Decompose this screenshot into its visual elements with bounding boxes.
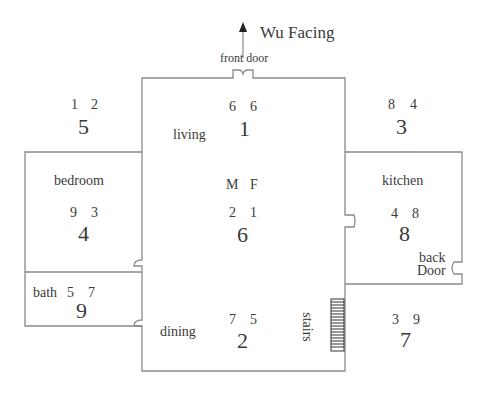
stairs-icon [331,299,344,351]
center-base-star: 6 [237,224,248,246]
w-facing-star: 3 [91,206,98,220]
n-facing-star: 6 [250,100,257,114]
bedroom-label: bedroom [54,174,104,188]
e-base-star: 8 [399,223,410,245]
ne-facing-star: 4 [410,98,417,112]
e-facing-star: 8 [412,207,419,221]
sw-mountain-star: 5 [67,286,74,300]
e-mountain-star: 4 [391,207,398,221]
n-base-star: 1 [239,118,250,140]
kitchen-label: kitchen [382,174,423,188]
ne-base-star: 3 [396,116,407,138]
center-mountain-star: 2 [229,206,236,220]
sw-base-star: 9 [76,300,87,322]
se-mountain-star: 3 [392,313,399,327]
s-facing-star: 5 [250,313,257,327]
n-mountain-star: 6 [229,100,236,114]
sw-facing-star: 7 [88,286,95,300]
se-base-star: 7 [400,329,411,351]
w-mountain-star: 9 [70,206,77,220]
living-room-label: living [173,128,206,142]
front-door-label: front door [220,52,268,64]
facing-label: Wu Facing [260,24,334,41]
s-base-star: 2 [237,330,248,352]
se-facing-star: 9 [413,313,420,327]
center-f-label: F [250,178,258,192]
bath-label: bath [33,286,57,300]
center-m-label: M [226,178,238,192]
w-base-star: 4 [78,223,89,245]
back-door-label-line2: Door [417,264,446,278]
nw-mountain-star: 1 [71,98,78,112]
center-facing-star: 1 [250,206,257,220]
stairs-label: stairs [300,312,314,342]
ne-mountain-star: 8 [388,98,395,112]
nw-base-star: 5 [78,116,89,138]
nw-facing-star: 2 [91,98,98,112]
s-mountain-star: 7 [229,313,236,327]
dining-label: dining [160,325,196,339]
